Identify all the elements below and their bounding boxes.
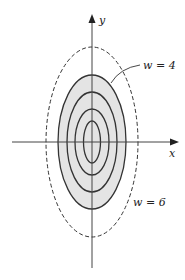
x-axis-arrow-icon [170,139,179,146]
x-axis-label: x [169,147,176,160]
label-w4: w = 4 [143,59,176,72]
contour-diagram: y x w = 4 w = 6 [0,0,185,280]
label-w6: w = 6 [133,196,166,209]
y-axis-label: y [98,14,106,27]
y-axis-arrow-icon [89,14,96,23]
w4-leader-line [111,65,140,83]
